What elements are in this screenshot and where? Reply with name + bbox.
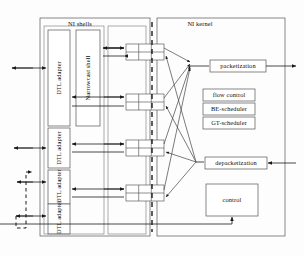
dtl-adapter-4-label: DTL adapter [55,204,63,234]
ni-shells-title: NI shells [68,21,92,27]
flow-control-label: flow control [213,92,246,98]
ni-kernel-title: NI kernel [187,21,212,27]
dashed-feedback-loop [16,172,32,228]
fifo-4-cells [126,185,164,201]
fifo-1-cells [126,44,164,60]
gt-scheduler-label: GT-scheduler [211,120,247,126]
narrowcast-shell-label: Narrowcast shell [84,32,92,124]
depacketization-to-fifo-links [166,56,196,197]
control-label: control [223,197,242,203]
dtl-adapter-1-label: DTL adapter [55,33,63,123]
diagram-vector-layer [0,0,304,256]
diagram-canvas: NI shells NI kernel DTL adapter Narrowca… [0,0,304,256]
dtl-adapter-2-label: DTL adapter [55,129,63,167]
packetization-label: packetization [220,63,255,69]
fifo-to-packetization-links [164,48,190,190]
fifo-2-cells [126,94,164,110]
fifo-3-cells [126,140,164,156]
depacketization-label: depacketization [215,160,257,166]
dtl-adapter-3-label: DTL adapter [55,171,63,203]
be-scheduler-label: BE-scheduler [211,106,247,112]
